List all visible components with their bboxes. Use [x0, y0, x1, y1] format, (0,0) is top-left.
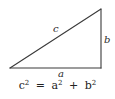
formula-b-exponent: 2 [92, 79, 96, 87]
label-c: c [53, 23, 59, 34]
formula-a-exponent: 2 [58, 79, 62, 87]
formula-b: b [85, 79, 92, 92]
formula-plus: + [69, 79, 78, 92]
pythagorean-formula: c2 = a2 + b2 [0, 79, 115, 92]
label-a: a [58, 68, 64, 79]
formula-equals: = [36, 79, 45, 92]
label-b: b [104, 34, 110, 45]
formula-c-exponent: 2 [25, 79, 29, 87]
side-c-hypotenuse [10, 9, 101, 68]
